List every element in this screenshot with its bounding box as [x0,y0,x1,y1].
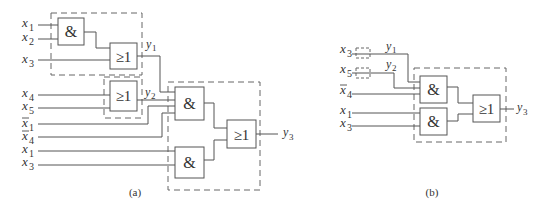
svg-text:5: 5 [29,105,34,116]
input-label-x3: x 3 [21,51,34,69]
svg-text:5: 5 [347,68,352,79]
svg-text:2: 2 [29,36,34,47]
svg-text:≥1: ≥1 [234,127,250,143]
svg-text:3: 3 [289,132,294,142]
wire-and3-or3 [204,140,227,160]
svg-text:&: & [65,23,78,40]
svg-text:y: y [145,37,152,51]
svg-text:≥1: ≥1 [116,49,132,65]
wire-and1-or [447,87,473,103]
svg-text:&: & [427,81,440,98]
and-gate-1: & [58,18,84,45]
svg-text:x: x [21,98,28,113]
caption-b: (b) [426,186,439,199]
svg-text:4: 4 [347,89,352,100]
and-gate-3: & [175,147,204,178]
logic-circuit-diagrams: x 1 x 2 x 3 x 4 x 5 x 1 x 4 x [0,0,548,211]
wire-x4-bar [38,113,175,137]
wire-and2-or3 [204,103,227,128]
svg-text:1: 1 [29,148,34,159]
output-label-y2: y 2 [144,85,156,101]
svg-text:y: y [385,39,392,53]
output-label-y2: y 2 [385,57,397,73]
output-label-y1: y 1 [385,39,397,55]
svg-text:x: x [339,115,346,130]
svg-text:y: y [385,57,392,71]
svg-text:3: 3 [347,48,352,59]
svg-text:&: & [183,154,196,171]
or-gate-1: ≥1 [473,95,500,122]
removed-gate-stub-1 [356,48,370,58]
svg-text:≥1: ≥1 [116,88,132,104]
and-gate-2: & [175,87,204,120]
svg-text:&: & [183,95,196,112]
svg-text:x: x [339,82,346,97]
svg-text:3: 3 [29,161,34,172]
svg-text:2: 2 [151,91,156,101]
svg-text:&: & [427,113,440,130]
svg-text:y: y [144,85,151,99]
and-gate-1: & [420,76,447,103]
svg-text:x: x [339,61,346,76]
diagram-b: x 3 x 5 x 4 x 1 x 3 [339,39,528,199]
svg-text:1: 1 [392,45,397,55]
svg-text:1: 1 [347,109,352,120]
svg-text:x: x [21,15,28,30]
and-gate-2: & [420,108,447,135]
caption-a: (a) [129,186,142,199]
svg-text:3: 3 [347,122,352,133]
diagram-a: x 1 x 2 x 3 x 4 x 5 x 1 x 4 x [21,13,294,199]
or-gate-2: ≥1 [110,81,137,111]
or-gate-3: ≥1 [227,120,256,148]
svg-text:x: x [339,41,346,56]
svg-text:x: x [21,51,28,66]
output-label-y1: y 1 [145,37,157,53]
wire-and1-or1 [84,32,110,48]
svg-text:x: x [21,154,28,169]
wire-x1-bar [38,106,175,124]
svg-text:4: 4 [29,92,34,103]
svg-text:4: 4 [29,135,34,146]
svg-text:≥1: ≥1 [479,101,495,117]
svg-text:2: 2 [392,63,397,73]
svg-text:3: 3 [523,107,528,117]
input-label-x3: x 3 [339,41,352,59]
output-label-y3: y 3 [516,100,528,117]
wire-y2 [352,73,420,88]
input-label-x5: x 5 [339,61,352,79]
svg-text:y: y [282,125,289,139]
wire-and2-or [447,114,473,121]
svg-text:1: 1 [29,22,34,33]
output-label-y3: y 3 [282,125,294,142]
svg-text:1: 1 [29,122,34,133]
svg-text:y: y [516,100,523,114]
wire-y1 [137,56,175,92]
svg-text:x: x [21,29,28,44]
or-gate-1: ≥1 [110,43,137,69]
input-label-x4-bar: x 4 [339,82,352,100]
svg-text:3: 3 [29,58,34,69]
svg-text:1: 1 [152,43,157,53]
